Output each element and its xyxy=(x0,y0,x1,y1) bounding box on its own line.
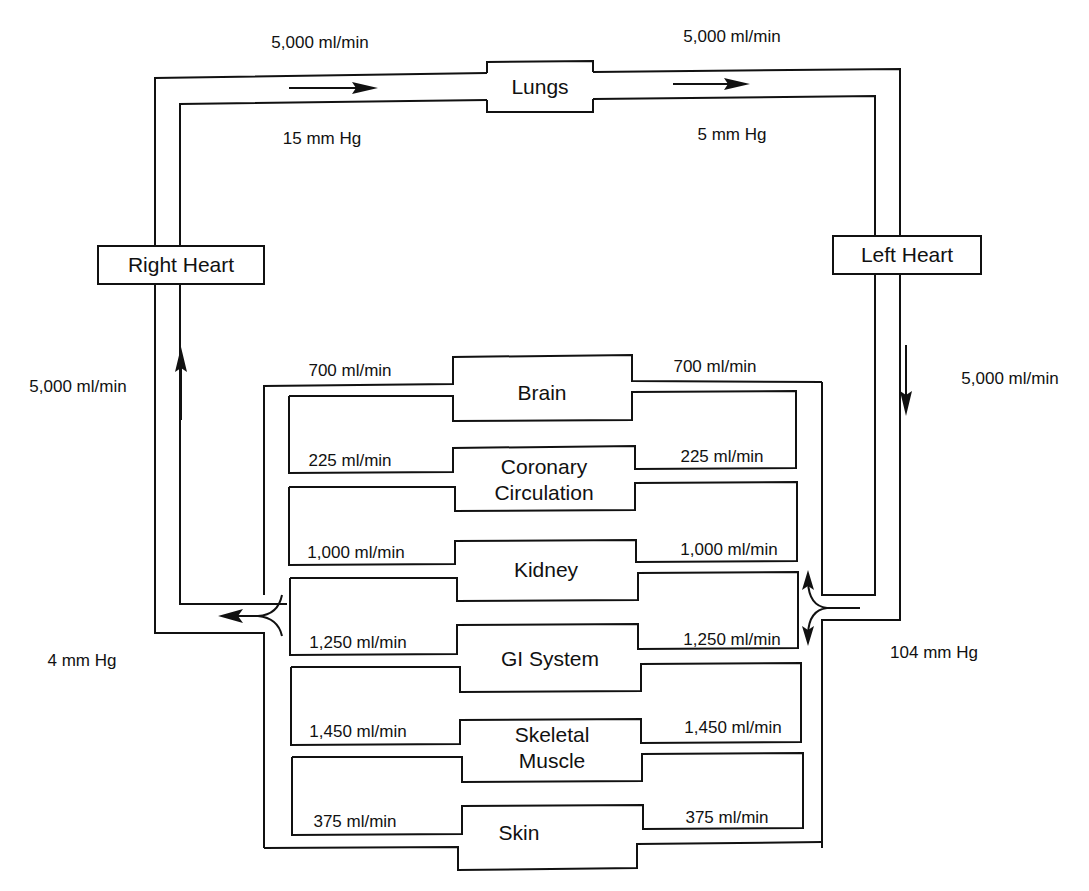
coronary-flow-right: 225 ml/min xyxy=(680,447,763,466)
gi-flow-right: 1,250 ml/min xyxy=(683,630,780,649)
coronary-label-line1: Coronary xyxy=(501,455,588,478)
brain-flow-right: 700 ml/min xyxy=(673,357,756,376)
left-heart-label: Left Heart xyxy=(861,243,953,266)
kidney-flow-left: 1,000 ml/min xyxy=(307,543,404,562)
skeletal-flow-left: 1,450 ml/min xyxy=(309,722,406,741)
pulmonary-vein-outer xyxy=(593,69,900,236)
systemic-outer-bottom xyxy=(264,842,822,870)
brain-label: Brain xyxy=(517,381,566,404)
vena-cava-inner xyxy=(180,284,287,604)
pulmonary-vein-inner xyxy=(593,96,875,236)
vena-cava-outer xyxy=(155,284,264,848)
skeletal-label-line1: Skeletal xyxy=(515,723,590,746)
gi-flow-left: 1,250 ml/min xyxy=(309,633,406,652)
pulmonary-pressure-out-label: 5 mm Hg xyxy=(698,125,767,144)
venous-pressure-label: 4 mm Hg xyxy=(48,651,117,670)
pulmonary-pressure-in-label: 15 mm Hg xyxy=(283,129,361,148)
kidney-flow-right: 1,000 ml/min xyxy=(680,540,777,559)
skin-label: Skin xyxy=(499,821,540,844)
arterial-flow-label: 5,000 ml/min xyxy=(961,369,1058,388)
organ-skin: Skin 375 ml/min 375 ml/min xyxy=(313,808,768,844)
pulmonary-artery-outer xyxy=(155,73,487,245)
venous-merge-icon xyxy=(232,595,282,636)
gi-label: GI System xyxy=(501,647,599,670)
aorta-outer xyxy=(822,274,900,848)
lungs-label: Lungs xyxy=(511,75,568,98)
arterial-split-icon xyxy=(808,582,860,634)
skeletal-flow-right: 1,450 ml/min xyxy=(684,718,781,737)
kidney-label: Kidney xyxy=(514,558,579,581)
circulation-diagram: Lungs 5,000 ml/min 5,000 ml/min 15 mm Hg… xyxy=(0,0,1089,891)
brain-flow-left: 700 ml/min xyxy=(308,361,391,380)
pulmonary-flow-in-label: 5,000 ml/min xyxy=(271,33,368,52)
skin-flow-left: 375 ml/min xyxy=(313,812,396,831)
skeletal-label-line2: Muscle xyxy=(519,749,586,772)
coronary-label-line2: Circulation xyxy=(494,481,593,504)
pulmonary-artery-inner xyxy=(180,100,487,245)
venous-return-flow-label: 5,000 ml/min xyxy=(29,377,126,396)
arterial-pressure-label: 104 mm Hg xyxy=(890,643,978,662)
right-heart: Right Heart 5,000 ml/min 4 mm Hg xyxy=(29,246,287,848)
left-heart: Left Heart 5,000 ml/min 104 mm Hg xyxy=(802,236,1059,848)
pulmonary-circuit: Lungs 5,000 ml/min 5,000 ml/min 15 mm Hg… xyxy=(155,27,900,245)
systemic-circuit: Brain 700 ml/min 700 ml/min Coronary Cir… xyxy=(264,355,822,870)
right-heart-label: Right Heart xyxy=(128,253,234,276)
aorta-inner xyxy=(822,274,875,595)
pulmonary-flow-out-label: 5,000 ml/min xyxy=(683,27,780,46)
coronary-flow-left: 225 ml/min xyxy=(308,451,391,470)
skin-flow-right: 375 ml/min xyxy=(685,808,768,827)
